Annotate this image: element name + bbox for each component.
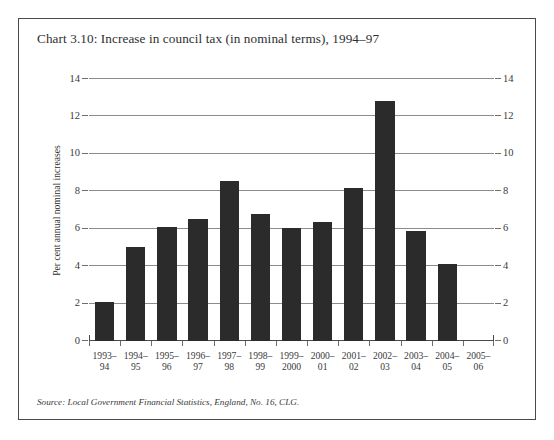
x-tick-label: 2001– 02 <box>342 350 366 373</box>
x-tick-label: 2000– 01 <box>311 350 335 373</box>
x-tick-mark <box>307 341 308 346</box>
x-tick-label: 1994– 95 <box>124 350 148 373</box>
x-tick-label: 2003– 04 <box>404 350 428 373</box>
y-tick-label-left: 6 <box>75 223 80 234</box>
x-tick-mark <box>89 341 90 346</box>
x-tick-label: 1999– 2000 <box>280 350 304 373</box>
y-tick-label-right: 12 <box>503 111 514 122</box>
bar <box>375 101 394 341</box>
x-tick-label: 1997– 98 <box>217 350 241 373</box>
y-tick-label-right: 6 <box>503 223 508 234</box>
y-axis-title: Per cent annual nominal increases <box>49 79 63 341</box>
y-tick-mark-left <box>82 265 88 266</box>
axis-corner-left <box>89 335 90 341</box>
x-tick-mark <box>463 341 464 346</box>
y-tick-mark-left <box>82 115 88 116</box>
bar <box>313 222 332 341</box>
bar <box>95 302 114 341</box>
source-note: Source: Local Government Financial Stati… <box>37 397 299 407</box>
y-tick-label-right: 10 <box>503 148 514 159</box>
y-tick-label-right: 0 <box>503 336 508 347</box>
x-tick-label: 1993– 94 <box>93 350 117 373</box>
x-tick-mark <box>493 341 494 346</box>
y-tick-mark-left <box>82 340 88 341</box>
x-tick-mark <box>151 341 152 346</box>
chart-figure: Chart 3.10: Increase in council tax (in … <box>18 18 536 420</box>
x-tick-mark <box>401 341 402 346</box>
x-tick-label: 1998– 99 <box>248 350 272 373</box>
x-tick-mark <box>276 341 277 346</box>
bar <box>251 214 270 341</box>
y-tick-label-left: 0 <box>75 336 80 347</box>
x-tick-label: 2005– 06 <box>466 350 490 373</box>
y-tick-label-left: 12 <box>70 111 81 122</box>
y-tick-mark-right <box>495 265 501 266</box>
x-tick-mark <box>182 341 183 346</box>
plot-area: 02468101214 02468101214 1993– 941994– 95… <box>89 79 494 341</box>
x-tick-mark <box>120 341 121 346</box>
bar <box>157 227 176 341</box>
chart-title: Chart 3.10: Increase in council tax (in … <box>37 31 379 47</box>
y-tick-mark-left <box>82 153 88 154</box>
x-tick-mark <box>214 341 215 346</box>
y-tick-label-left: 14 <box>70 74 81 85</box>
x-tick-label: 1996– 97 <box>186 350 210 373</box>
y-tick-mark-left <box>82 228 88 229</box>
y-tick-mark-right <box>495 78 501 79</box>
y-tick-label-right: 14 <box>503 74 514 85</box>
y-tick-mark-right <box>495 153 501 154</box>
x-tick-mark <box>369 341 370 346</box>
x-tick-mark <box>338 341 339 346</box>
y-tick-label-right: 2 <box>503 298 508 309</box>
y-tick-mark-left <box>82 303 88 304</box>
x-tick-mark <box>245 341 246 346</box>
bar <box>438 264 457 341</box>
y-tick-mark-right <box>495 190 501 191</box>
y-tick-label-left: 4 <box>75 261 80 272</box>
x-tick-label: 1995– 96 <box>155 350 179 373</box>
y-tick-mark-left <box>82 78 88 79</box>
y-tick-label-right: 8 <box>503 186 508 197</box>
bar <box>282 228 301 341</box>
x-tick-mark <box>432 341 433 346</box>
y-tick-label-left: 8 <box>75 186 80 197</box>
x-tick-label: 2002– 03 <box>373 350 397 373</box>
bar <box>126 247 145 341</box>
bar <box>406 231 425 341</box>
bar <box>188 219 207 341</box>
y-axis-title-label: Per cent annual nominal increases <box>51 145 62 276</box>
y-tick-mark-right <box>495 340 501 341</box>
y-tick-mark-left <box>82 190 88 191</box>
x-tick-label: 2004– 05 <box>435 350 459 373</box>
y-tick-mark-right <box>495 303 501 304</box>
y-tick-label-left: 2 <box>75 298 80 309</box>
bar <box>220 181 239 341</box>
y-tick-label-right: 4 <box>503 261 508 272</box>
y-tick-label-left: 10 <box>70 148 81 159</box>
y-tick-mark-right <box>495 228 501 229</box>
bar-series <box>89 79 494 341</box>
bar <box>344 188 363 341</box>
y-tick-mark-right <box>495 115 501 116</box>
axis-corner-right <box>493 335 494 341</box>
